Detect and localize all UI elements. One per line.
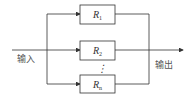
ellipsis: ⋮ [97, 63, 107, 74]
parallel-diagram: R1 R2 Rn ⋮ 输入 输出 [0, 0, 195, 108]
input-label: 输入 [17, 53, 35, 64]
output-label: 输出 [155, 59, 173, 70]
